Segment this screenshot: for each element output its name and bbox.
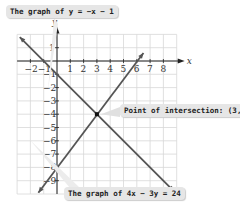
callout-line-1: The graph of y = −x − 1 [6, 5, 118, 18]
x-axis-label: x [187, 56, 192, 66]
x-tick-label: 1 [67, 64, 73, 74]
callout-line-2: The graph of 4x − 3y = 24 [64, 187, 185, 200]
x-tick-label: 8 [160, 64, 166, 74]
y-tick-label: −2 [43, 83, 56, 93]
x-tick-label: 2 [81, 64, 87, 74]
x-tick-label: 4 [107, 64, 113, 74]
x-tick-label: −2 [24, 64, 37, 74]
callout-intersection: Point of intersection: (3, −4) [120, 104, 240, 117]
coordinate-plane: xy−2−1123456781−1−2−3−4−5−6−7−8−9 [0, 0, 240, 204]
y-tick-label: −5 [43, 123, 57, 133]
x-axis-arrow-icon [178, 59, 185, 64]
y-tick-label: −3 [43, 96, 57, 106]
x-tick-label: 3 [94, 64, 100, 74]
y-tick-label: −4 [43, 109, 57, 119]
intersection-point [95, 112, 99, 116]
x-tick-label: 5 [121, 64, 127, 74]
y-tick-label: −6 [43, 136, 57, 146]
x-tick-label: 7 [147, 64, 153, 74]
